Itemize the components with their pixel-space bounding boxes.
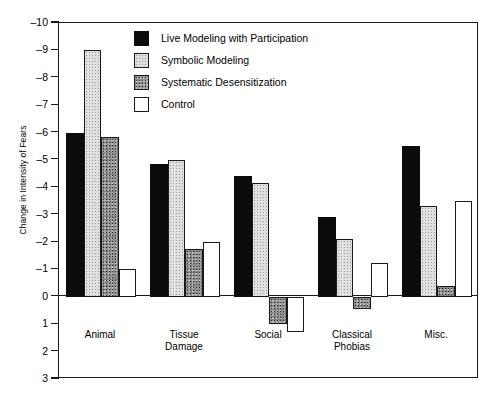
y-tick-label: –9 <box>10 43 48 55</box>
bar <box>455 201 473 297</box>
legend-label: Systematic Desensitization <box>161 76 286 88</box>
legend-item: Live Modeling with Participation <box>134 27 308 49</box>
legend-swatch-icon <box>134 31 149 46</box>
y-axis-title: Change in Intensity of Fears <box>18 80 28 280</box>
legend-item: Symbolic Modeling <box>134 49 308 71</box>
y-tick-label: –1 <box>10 262 48 274</box>
legend-label: Symbolic Modeling <box>161 54 249 66</box>
bar <box>287 297 305 333</box>
bar <box>84 50 102 296</box>
y-tick-label: 2 <box>10 345 48 357</box>
y-tick-label: 1 <box>10 317 48 329</box>
y-tick-label: 0 <box>10 290 48 302</box>
bar <box>252 183 270 297</box>
bar <box>101 137 119 297</box>
bar <box>234 176 252 296</box>
bar <box>203 242 221 297</box>
legend-item: Control <box>134 93 308 115</box>
x-axis-category-label: Misc. <box>424 329 447 342</box>
y-tick-label: 3 <box>10 372 48 384</box>
bar <box>269 297 287 324</box>
y-tick-label: –5 <box>10 153 48 165</box>
bar <box>185 249 203 297</box>
bar <box>318 217 336 296</box>
y-tick-label: –6 <box>10 126 48 138</box>
legend-swatch-icon <box>134 53 149 68</box>
bar <box>150 164 168 297</box>
x-axis-category-label: Social <box>254 329 281 342</box>
bar <box>119 269 137 296</box>
bar <box>336 239 354 297</box>
legend-swatch-icon <box>134 75 149 90</box>
x-axis-category-label: Tissue Damage <box>165 329 203 354</box>
legend-item: Systematic Desensitization <box>134 71 308 93</box>
x-axis-category-label: Classical Phobias <box>332 329 372 354</box>
bar <box>402 146 420 297</box>
legend-label: Control <box>161 98 195 110</box>
x-axis-category-label: Animal <box>85 329 116 342</box>
bar <box>437 286 455 297</box>
bar <box>353 297 371 309</box>
legend: Live Modeling with ParticipationSymbolic… <box>134 27 308 115</box>
bar <box>168 160 186 297</box>
y-tick-label: –2 <box>10 235 48 247</box>
bar <box>420 206 438 296</box>
bar <box>371 263 389 297</box>
y-tick-label: –4 <box>10 180 48 192</box>
y-tick-label: –8 <box>10 71 48 83</box>
bar-chart-figure: Change in Intensity of Fears –10–9–8–7–6… <box>0 0 486 409</box>
y-tick-label: –10 <box>10 16 48 28</box>
bar <box>66 133 84 297</box>
legend-swatch-icon <box>134 97 149 112</box>
y-tick-label: –3 <box>10 208 48 220</box>
y-tick-label: –7 <box>10 98 48 110</box>
legend-label: Live Modeling with Participation <box>161 32 308 44</box>
